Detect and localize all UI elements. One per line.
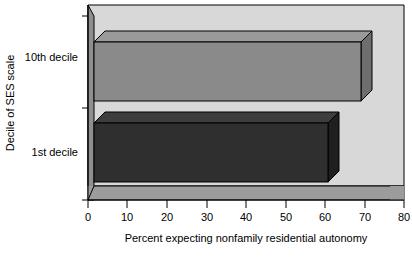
plot-floor-right-chamfer xyxy=(390,186,404,200)
x-tick-label-10: 10 xyxy=(121,211,133,223)
bar-1st-decile-side-face xyxy=(328,112,339,182)
x-axis-ticks xyxy=(88,200,404,208)
x-tick-label-50: 50 xyxy=(280,211,292,223)
x-tick-label-30: 30 xyxy=(201,211,213,223)
x-tick-label-0: 0 xyxy=(85,211,91,223)
x-tick-label-60: 60 xyxy=(319,211,331,223)
bar-10th-decile-side-face xyxy=(361,31,372,101)
chart-container: 0 10 20 30 40 50 60 70 80 10th decile 1s… xyxy=(0,0,412,257)
plot-floor-face xyxy=(88,186,404,200)
bar-1st-decile-top-face xyxy=(94,112,339,123)
bar-10th-decile-front-face xyxy=(94,42,361,101)
plot-left-wall-face xyxy=(88,5,94,200)
x-tick-label-70: 70 xyxy=(359,211,371,223)
x-tick-label-20: 20 xyxy=(161,211,173,223)
bar-10th-decile-top-face xyxy=(94,31,372,42)
category-label-1st-decile: 1st decile xyxy=(32,146,78,158)
bar-1st-decile-front-face xyxy=(94,123,328,182)
x-tick-label-80: 80 xyxy=(398,211,410,223)
x-axis-title: Percent expecting nonfamily residential … xyxy=(125,232,368,244)
y-axis-title: Decile of SES scale xyxy=(4,55,16,152)
bar-1st-decile xyxy=(94,112,339,182)
category-label-10th-decile: 10th decile xyxy=(25,51,78,63)
x-tick-label-40: 40 xyxy=(240,211,252,223)
bar-chart-figure: 0 10 20 30 40 50 60 70 80 10th decile 1s… xyxy=(0,0,412,257)
bar-10th-decile xyxy=(94,31,372,101)
